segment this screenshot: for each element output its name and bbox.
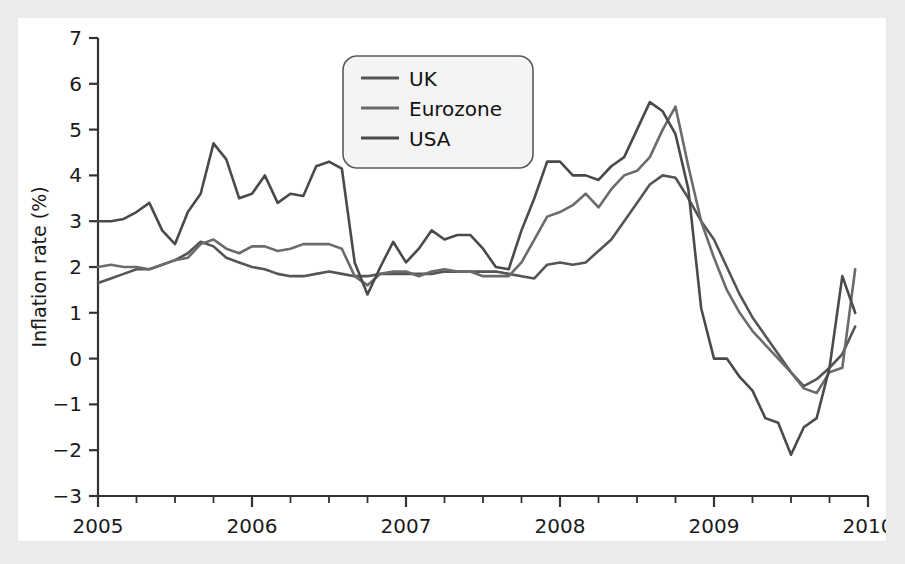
x-axis-tick-label: 2009 bbox=[689, 514, 740, 538]
y-axis-tick-label: 6 bbox=[69, 72, 82, 96]
legend-label-usa[interactable]: USA bbox=[409, 127, 451, 151]
legend-label-eurozone[interactable]: Eurozone bbox=[409, 97, 502, 121]
y-axis-tick-label: 3 bbox=[69, 209, 82, 233]
y-axis-tick-label: 5 bbox=[69, 118, 82, 142]
y-axis-tick-label: 4 bbox=[69, 163, 82, 187]
x-axis-tick-label: 2005 bbox=[73, 514, 124, 538]
x-axis-tick-label: 2006 bbox=[227, 514, 278, 538]
legend-label-uk[interactable]: UK bbox=[409, 67, 438, 91]
x-axis-tick-label: 2007 bbox=[381, 514, 432, 538]
y-axis-title: Inflation rate (%) bbox=[28, 186, 50, 347]
chart-panel: −3−2−101234567200520062007200820092010 I… bbox=[18, 18, 886, 541]
series-line-uk bbox=[98, 175, 855, 386]
chart-legend[interactable]: UKEurozoneUSA bbox=[343, 56, 533, 168]
y-axis-tick-label: 2 bbox=[69, 255, 82, 279]
inflation-line-chart: −3−2−101234567200520062007200820092010 I… bbox=[18, 18, 886, 541]
x-axis-tick-label: 2008 bbox=[535, 514, 586, 538]
y-axis-tick-label: −3 bbox=[53, 484, 82, 508]
y-axis-tick-label: 7 bbox=[69, 26, 82, 50]
figure-root: −3−2−101234567200520062007200820092010 I… bbox=[0, 0, 905, 564]
y-axis-tick-label: 1 bbox=[69, 301, 82, 325]
y-axis-tick-label: −1 bbox=[53, 392, 82, 416]
y-axis-tick-label: 0 bbox=[69, 347, 82, 371]
x-axis-tick-label: 2010 bbox=[843, 514, 886, 538]
y-axis-tick-label: −2 bbox=[53, 438, 82, 462]
